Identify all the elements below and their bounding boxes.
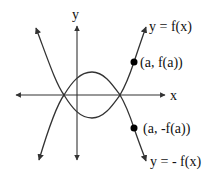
- point-a-fa-label: (a, f(a)): [140, 55, 183, 71]
- point-a-neg-fa-dot: [131, 125, 138, 132]
- reflection-diagram: y x y = f(x) y = - f(x) (a, f(a)) (a, -f…: [0, 0, 209, 179]
- curve-neg-f: [39, 72, 146, 161]
- y-axis-label: y: [72, 7, 79, 22]
- curve-f-label: y = f(x): [149, 19, 192, 35]
- point-a-neg-fa-label: (a, -f(a)): [143, 121, 191, 137]
- x-axis-label: x: [170, 88, 177, 103]
- curve-neg-f-label: y = - f(x): [150, 154, 201, 170]
- point-a-fa-dot: [131, 59, 138, 66]
